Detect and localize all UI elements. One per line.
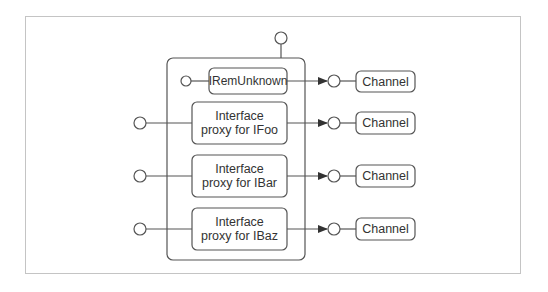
top-interface-icon: [275, 32, 287, 44]
ibaz-interface-icon: [134, 223, 146, 235]
channel-interface-icon: [328, 223, 340, 235]
channel-text: Channel: [362, 169, 409, 183]
ibar-interface-icon: [134, 170, 146, 182]
iremunknown-interface-icon: [181, 76, 191, 86]
ifoo-line2: proxy for IFoo: [201, 123, 278, 137]
channel-label-4: Channel: [356, 218, 415, 240]
channel-text: Channel: [362, 75, 409, 89]
channel-label-3: Channel: [356, 165, 415, 187]
iremunknown-text: IRemUnknown: [209, 74, 288, 88]
ibar-line1: Interface: [215, 162, 264, 176]
ibar-line2: proxy for IBar: [202, 176, 277, 190]
channel-interface-icon: [328, 117, 340, 129]
channel-interface-icon: [328, 170, 340, 182]
channel-label-2: Channel: [356, 112, 415, 134]
ifoo-interface-icon: [134, 117, 146, 129]
ifoo-proxy-label: Interface proxy for IFoo: [192, 102, 287, 144]
channel-label-1: Channel: [356, 71, 415, 92]
channel-interface-icon: [328, 75, 340, 87]
ibar-proxy-label: Interface proxy for IBar: [192, 155, 287, 197]
channel-text: Channel: [362, 116, 409, 130]
iremunknown-label: IRemUnknown: [209, 68, 287, 94]
ibaz-line1: Interface: [215, 215, 264, 229]
ibaz-line2: proxy for IBaz: [201, 229, 278, 243]
ibaz-proxy-label: Interface proxy for IBaz: [192, 208, 287, 250]
channel-text: Channel: [362, 222, 409, 236]
ifoo-line1: Interface: [215, 109, 264, 123]
